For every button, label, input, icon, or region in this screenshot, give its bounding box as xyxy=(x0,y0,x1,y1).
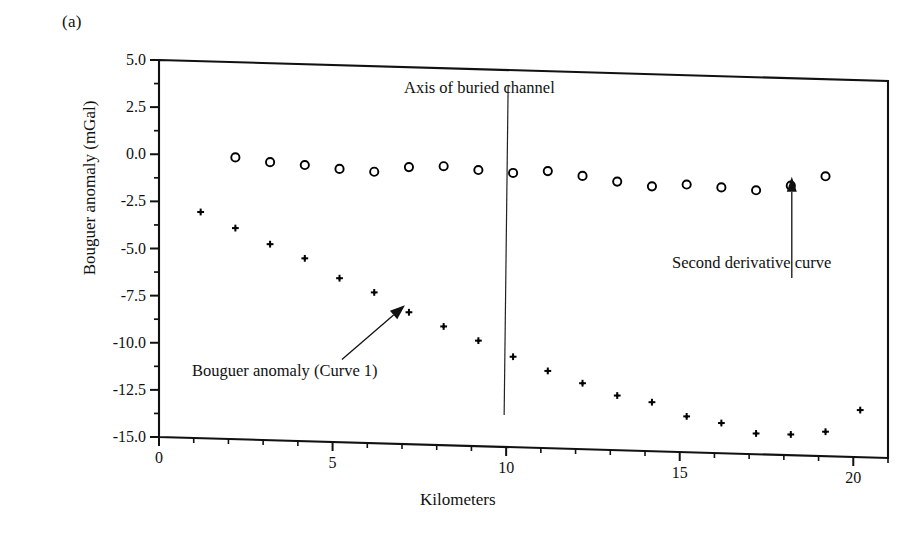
data-point-bouguer-anomaly xyxy=(649,399,656,406)
data-point-second-derivative xyxy=(370,168,378,176)
data-point-bouguer-anomaly xyxy=(371,289,378,296)
data-point-second-derivative xyxy=(717,183,725,191)
data-point-bouguer-anomaly xyxy=(440,323,447,330)
data-point-bouguer-anomaly xyxy=(267,241,274,248)
data-point-bouguer-anomaly xyxy=(753,430,760,437)
data-point-bouguer-anomaly xyxy=(718,420,725,427)
data-point-bouguer-anomaly xyxy=(614,392,621,399)
data-point-bouguer-anomaly xyxy=(475,337,482,344)
data-point-second-derivative xyxy=(821,172,829,180)
data-point-bouguer-anomaly xyxy=(336,275,343,282)
annotation-axis-of-buried-channel: Axis of buried channel xyxy=(404,80,555,97)
data-point-second-derivative xyxy=(231,153,239,161)
data-point-second-derivative xyxy=(301,161,309,169)
annotation-bouguer-anomaly-curve-1: Bouguer anomaly (Curve 1) xyxy=(192,363,378,380)
buried-channel-axis-line xyxy=(504,85,508,415)
data-point-bouguer-anomaly xyxy=(510,353,517,360)
series-second-derivative-curve xyxy=(231,153,829,194)
data-point-second-derivative xyxy=(683,180,691,188)
data-point-second-derivative xyxy=(752,186,760,194)
series-bouguer-anomaly xyxy=(197,209,863,438)
data-point-second-derivative xyxy=(648,182,656,190)
arrow-bouguer-anomaly xyxy=(342,305,405,359)
data-point-second-derivative xyxy=(405,163,413,171)
data-point-second-derivative xyxy=(613,177,621,185)
data-point-bouguer-anomaly xyxy=(544,368,551,375)
data-point-bouguer-anomaly xyxy=(787,431,794,438)
data-point-bouguer-anomaly xyxy=(197,209,204,216)
data-point-second-derivative xyxy=(335,165,343,173)
annotation-second-derivative-curve: Second derivative curve xyxy=(672,255,831,272)
data-point-bouguer-anomaly xyxy=(857,407,864,414)
figure-container: (a) Bouguer anomaly (mGal) Kilometers 5.… xyxy=(0,0,923,542)
data-point-bouguer-anomaly xyxy=(822,428,829,435)
data-point-second-derivative xyxy=(266,158,274,166)
data-point-second-derivative xyxy=(544,167,552,175)
data-point-second-derivative xyxy=(440,162,448,170)
data-point-bouguer-anomaly xyxy=(301,255,308,262)
data-point-second-derivative xyxy=(509,169,517,177)
data-point-bouguer-anomaly xyxy=(406,309,413,316)
data-point-second-derivative xyxy=(578,172,586,180)
data-point-second-derivative xyxy=(474,166,482,174)
data-point-bouguer-anomaly xyxy=(579,380,586,387)
data-point-bouguer-anomaly xyxy=(232,225,239,232)
data-point-bouguer-anomaly xyxy=(683,413,690,420)
buried-channel-line xyxy=(504,85,508,415)
